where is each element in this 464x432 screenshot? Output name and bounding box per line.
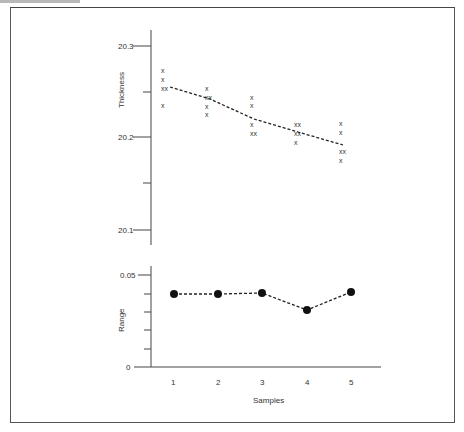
mark: x: [205, 85, 209, 92]
xtick-label-1: 1: [171, 378, 176, 387]
range-point-1: [170, 290, 178, 298]
x-tick-labels: 1 2 3 4 5: [171, 378, 354, 387]
sample-1-measurements: x x xx x: [161, 67, 169, 109]
xtick-label-3: 3: [260, 378, 265, 387]
sample-4-measurements: xx xx x: [294, 121, 302, 146]
mark: x: [161, 67, 165, 74]
mark: x: [205, 103, 209, 110]
chart-svg: 20.3 20.2 20.1 Thickness x x xx x x xx x…: [0, 0, 464, 432]
range-axis-label: Range: [117, 308, 126, 332]
mark: x: [205, 111, 209, 118]
sample-5-measurements: x x xx x: [339, 120, 347, 164]
mark: x: [250, 121, 254, 128]
mark: xx: [205, 94, 213, 101]
sample-2-measurements: x xx x x: [205, 85, 213, 118]
mark: x: [250, 102, 254, 109]
xtick-label-4: 4: [305, 378, 310, 387]
mark: x: [161, 76, 165, 83]
x-axis-label: Samples: [253, 396, 284, 405]
mark: xx: [250, 130, 258, 137]
mark: x: [294, 139, 298, 146]
range-point-5: [347, 288, 355, 296]
mark: x: [339, 157, 343, 164]
mark: x: [339, 120, 343, 127]
thickness-axis-label: Thickness: [117, 72, 126, 108]
range-chart: 0.05 0 Range 1 2 3 4 5 Samples: [117, 266, 381, 405]
ytick-label-0: 0: [126, 363, 131, 372]
mark: x: [339, 129, 343, 136]
mark: xx: [294, 130, 302, 137]
mark: x: [161, 102, 165, 109]
ytick-label-20-1: 20.1: [118, 226, 134, 235]
range-point-3: [258, 289, 266, 297]
thickness-chart: 20.3 20.2 20.1 Thickness x x xx x x xx x…: [117, 30, 347, 245]
ytick-label-0-05: 0.05: [120, 271, 136, 280]
mark: xx: [294, 121, 302, 128]
mark: xx: [161, 85, 169, 92]
mark: x: [250, 94, 254, 101]
xtick-label-5: 5: [349, 378, 354, 387]
range-point-2: [214, 290, 222, 298]
ytick-label-20-3: 20.3: [118, 42, 134, 51]
mark: xx: [339, 148, 347, 155]
sample-3-measurements: x x x xx: [250, 94, 258, 137]
ytick-label-20-2: 20.2: [118, 133, 134, 142]
xtick-label-2: 2: [216, 378, 221, 387]
range-point-4: [303, 306, 311, 314]
